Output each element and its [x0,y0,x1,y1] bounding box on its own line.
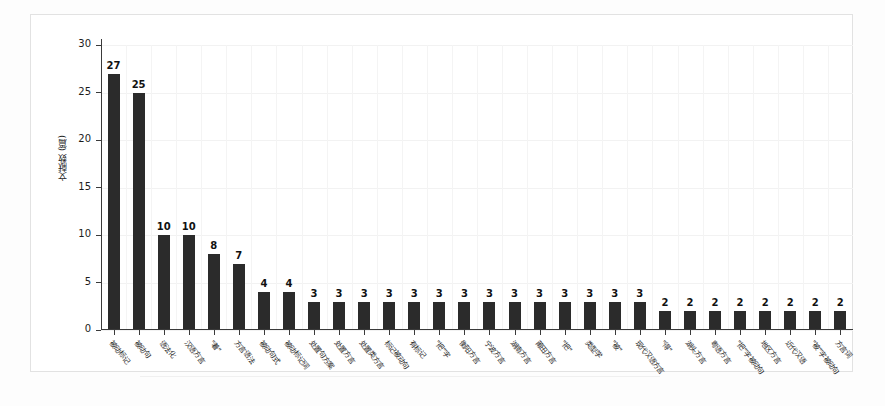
bar[interactable]: 8 [208,254,220,330]
x-axis-tick-slot [452,330,477,336]
x-axis-tick-slot [101,330,126,336]
bar[interactable]: 25 [133,93,145,331]
bar[interactable]: 4 [258,292,270,330]
bar-value-label: 3 [611,288,618,299]
bar-slot: 3 [602,45,627,330]
bar[interactable]: 3 [433,302,445,331]
bar-slot: 3 [477,45,502,330]
bar[interactable]: 3 [358,302,370,331]
x-axis-label-slot: "把"字 [427,337,452,406]
x-axis-tick-mark [139,330,140,335]
bar[interactable]: 3 [308,302,320,331]
x-axis-tick-slot [803,330,828,336]
x-axis-tick-mark [164,330,165,335]
x-axis-tick-label: 方言词 [834,339,853,360]
x-axis-label-slot: 湖南方言 [502,337,527,406]
x-axis-tick-slot [728,330,753,336]
bar-slot: 25 [126,45,151,330]
x-axis-label-slot: 标记被动句 [377,337,402,406]
plot-area: 051015202530 272510108744333333333333332… [101,45,853,330]
bar-value-label: 10 [182,221,196,232]
x-axis-label-slot: "被"字被动句 [803,337,828,406]
bar[interactable]: 2 [734,311,746,330]
bar[interactable]: 7 [233,264,245,331]
x-axis-tick-slot [552,330,577,336]
y-axis-tick-label: 10 [67,228,91,239]
x-axis-tick-slot [251,330,276,336]
bar[interactable]: 3 [383,302,395,331]
bar[interactable]: 27 [108,74,120,331]
bar-value-label: 10 [157,221,171,232]
bar-value-label: 3 [411,288,418,299]
bar[interactable]: 4 [283,292,295,330]
bar[interactable]: 3 [609,302,621,331]
x-axis-tick-mark [289,330,290,335]
x-axis-tick-label: 语法化 [157,339,176,360]
x-axis-tick-slot [703,330,728,336]
x-axis-label-slot: 莆田方言 [527,337,552,406]
x-axis-tick-slot [652,330,677,336]
bar[interactable]: 3 [408,302,420,331]
bar[interactable]: 2 [659,311,671,330]
x-axis-label-slot: 有标记 [402,337,427,406]
bar[interactable]: 3 [509,302,521,331]
x-axis-label-slot: 汉语方言 [176,337,201,406]
x-axis-tick-mark [540,330,541,335]
bar[interactable]: 2 [809,311,821,330]
x-axis-tick-mark [590,330,591,335]
x-axis-label-slot: 地区方言 [753,337,778,406]
x-axis-label-slot: 宁波方言 [477,337,502,406]
bar-value-label: 3 [486,288,493,299]
x-axis-tick-slot [753,330,778,336]
bar[interactable]: 2 [834,311,846,330]
bar[interactable]: 3 [458,302,470,331]
bar-series: 2725101087443333333333333322222222 [101,45,853,330]
x-axis-tick-slot [627,330,652,336]
bar-slot: 8 [201,45,226,330]
bar[interactable]: 3 [634,302,646,331]
bar[interactable]: 10 [158,235,170,330]
x-axis-label-slot: "着" [201,337,226,406]
bar[interactable]: 10 [183,235,195,330]
bar-value-label: 3 [586,288,593,299]
bar[interactable]: 3 [584,302,596,331]
x-axis-label-slot: 衡阳方言 [452,337,477,406]
x-axis-label-slot: 被动句式 [251,337,276,406]
x-axis-labels: 被动标记被动句语法化汉语方言"着"方言语法被动句式被动标记词处置句方案处置方言处… [101,337,853,406]
bar[interactable]: 2 [684,311,696,330]
bar-value-label: 3 [336,288,343,299]
bar-value-label: 3 [461,288,468,299]
bar[interactable]: 3 [333,302,345,331]
bar-slot: 4 [251,45,276,330]
x-axis-label-slot: 处置句方案 [302,337,327,406]
bar-value-label: 2 [661,297,668,308]
bar-value-label: 3 [536,288,543,299]
x-axis-label-slot: 被动标记 [101,337,126,406]
x-axis-tick-label: "得" [659,339,674,354]
x-axis-tick-label: "把"字 [433,339,452,360]
x-axis-tick-slot [302,330,327,336]
x-axis-tick-label: 类型学 [583,339,602,360]
bar[interactable]: 3 [483,302,495,331]
bar[interactable]: 2 [784,311,796,330]
bar-value-label: 4 [285,278,292,289]
x-axis-tick-mark [665,330,666,335]
x-axis-label-slot: "得" [652,337,677,406]
bar-slot: 2 [703,45,728,330]
bar[interactable]: 2 [759,311,771,330]
bar[interactable]: 2 [709,311,721,330]
bar-value-label: 3 [636,288,643,299]
x-axis-label-slot: 处置方言 [327,337,352,406]
x-axis-label-slot: "把" [552,337,577,406]
x-axis-label-slot: 被动句 [126,337,151,406]
x-axis-label-slot: 湖头方言 [677,337,702,406]
bar-value-label: 2 [837,297,844,308]
x-axis-tick-slot [402,330,427,336]
bar-value-label: 8 [210,240,217,251]
bar[interactable]: 3 [534,302,546,331]
x-axis-tick-label: "把" [558,339,573,354]
x-axis-tick-mark [515,330,516,335]
x-axis-label-slot: 被动标记词 [276,337,301,406]
bar-value-label: 2 [737,297,744,308]
bar[interactable]: 3 [559,302,571,331]
